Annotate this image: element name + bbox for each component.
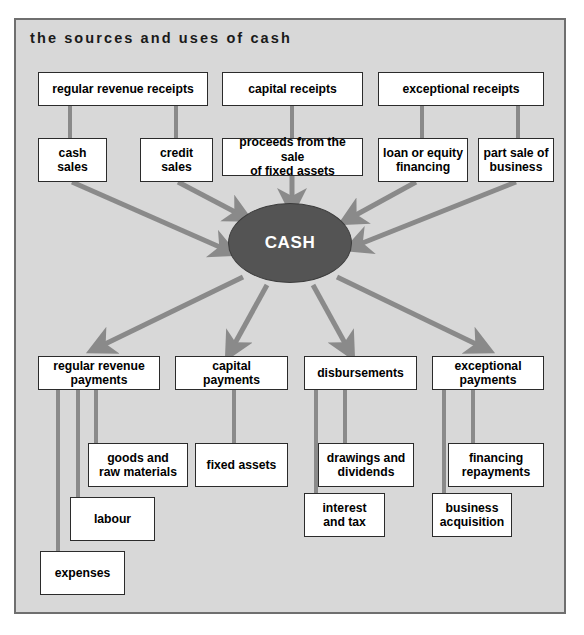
node-capital-receipts[interactable]: capital receipts (222, 72, 363, 106)
node-label: fixed assets (207, 458, 277, 472)
node-fixed-assets[interactable]: fixed assets (195, 443, 288, 487)
node-part-sale-of-business[interactable]: part sale ofbusiness (478, 138, 554, 182)
node-label: capital receipts (248, 82, 337, 96)
node-exceptional-payments[interactable]: exceptionalpayments (432, 356, 544, 390)
cash-label: CASH (265, 233, 316, 253)
node-label: interestand tax (322, 501, 366, 530)
node-business-acquisition[interactable]: businessacquisition (432, 493, 512, 537)
node-interest-and-tax[interactable]: interestand tax (304, 493, 385, 537)
node-label: credit sales (145, 146, 208, 175)
node-label: goods andraw materials (99, 451, 177, 480)
node-label: businessacquisition (440, 501, 504, 530)
node-goods-and-raw-materials[interactable]: goods andraw materials (88, 443, 188, 487)
diagram-title: the sources and uses of cash (30, 30, 292, 46)
node-cash-center[interactable]: CASH (228, 203, 352, 283)
node-label: proceeds from the saleof fixed assets (227, 135, 358, 178)
node-label: part sale ofbusiness (483, 146, 548, 175)
node-label: cash sales (43, 146, 102, 175)
node-label: labour (94, 512, 131, 526)
node-regular-revenue-payments[interactable]: regular revenuepayments (38, 356, 160, 390)
node-proceeds-from-sale-of-fixed-assets[interactable]: proceeds from the saleof fixed assets (222, 138, 363, 176)
node-capital-payments[interactable]: capitalpayments (175, 356, 288, 390)
diagram-canvas: the sources and uses of cash (0, 0, 584, 635)
node-exceptional-receipts[interactable]: exceptional receipts (378, 72, 544, 106)
node-financing-repayments[interactable]: financingrepayments (448, 443, 544, 487)
node-label: capitalpayments (203, 359, 260, 388)
node-label: disbursements (317, 366, 404, 380)
node-credit-sales[interactable]: credit sales (140, 138, 213, 182)
node-label: loan or equityfinancing (383, 146, 463, 175)
node-label: expenses (55, 566, 111, 580)
node-labour[interactable]: labour (70, 497, 155, 541)
node-label: exceptionalpayments (454, 359, 521, 388)
node-disbursements[interactable]: disbursements (304, 356, 417, 390)
node-label: exceptional receipts (402, 82, 519, 96)
node-loan-or-equity-financing[interactable]: loan or equityfinancing (378, 138, 468, 182)
node-regular-revenue-receipts[interactable]: regular revenue receipts (38, 72, 208, 106)
node-cash-sales[interactable]: cash sales (38, 138, 107, 182)
node-label: financingrepayments (462, 451, 530, 480)
node-expenses[interactable]: expenses (40, 551, 125, 595)
node-label: regular revenuepayments (53, 359, 144, 388)
node-label: drawings anddividends (327, 451, 406, 480)
node-drawings-and-dividends[interactable]: drawings anddividends (318, 443, 414, 487)
node-label: regular revenue receipts (52, 82, 194, 96)
